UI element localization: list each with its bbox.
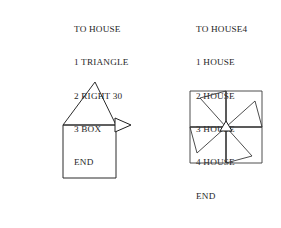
figure-house4: [182, 74, 278, 179]
house-instance: [200, 91, 262, 127]
code-line: TO HOUSE: [74, 24, 129, 35]
turtle-cursor-icon: [115, 118, 131, 132]
code-line: END: [196, 191, 247, 202]
code-line: TO HOUSE4: [196, 24, 247, 35]
figure-house: [55, 74, 165, 179]
house-instance: [190, 91, 226, 153]
house4-drawing: [182, 74, 278, 179]
house-roof-shape: [200, 91, 226, 127]
code-line: 1 TRIANGLE: [74, 57, 129, 68]
house-instance: [190, 127, 252, 163]
house-roof-shape: [63, 82, 116, 125]
house-instance: [226, 101, 262, 163]
house-roof-shape: [226, 127, 252, 163]
house-box-shape: [63, 125, 116, 178]
house-roof-shape: [226, 101, 262, 127]
code-line: 1 HOUSE: [196, 57, 247, 68]
house-drawing: [55, 74, 165, 179]
pinwheel-group: [190, 91, 262, 163]
logo-graphics-page: TO HOUSE 1 TRIANGLE 2 RIGHT 30 3 BOX END…: [0, 0, 281, 228]
